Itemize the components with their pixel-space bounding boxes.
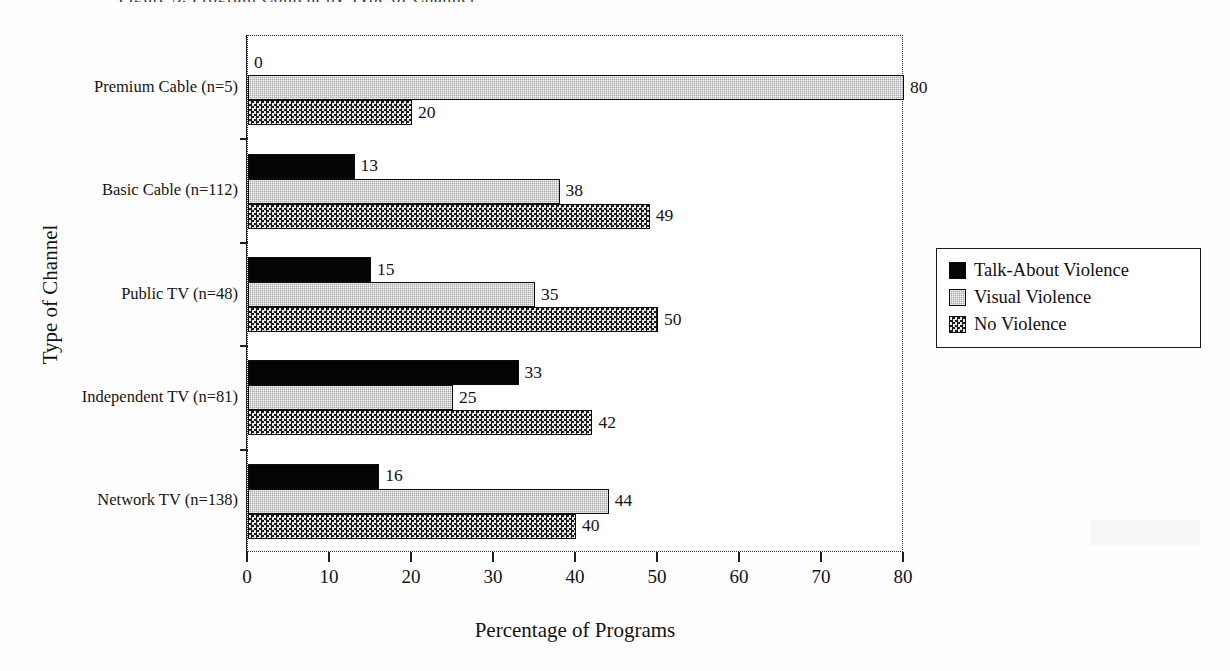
bar-talk-about-violence [248,464,379,489]
bar-value-label: 40 [576,515,600,536]
x-axis-tick [328,552,330,562]
bar-visual-violence [248,75,904,100]
x-axis-tick-label: 40 [566,566,585,588]
category-label: Public TV (n=48) [121,284,238,304]
bar-group: 153550 [248,257,902,332]
bar-row: 38 [248,179,902,204]
category-axis-labels: Premium Cable (n=5)Basic Cable (n=112)Pu… [0,0,238,671]
x-axis-tick [246,552,248,562]
x-axis-tick-label: 30 [484,566,503,588]
bar-row: 15 [248,257,902,282]
category-label: Independent TV (n=81) [82,387,238,407]
x-axis-tick-label: 70 [812,566,831,588]
legend-item: No Violence [949,311,1190,338]
bar-no-violence [248,514,576,539]
bar-talk-about-violence [248,360,519,385]
x-axis-tick [410,552,412,562]
bar-row: 80 [248,75,902,100]
bar-row: 42 [248,410,902,435]
category-label: Network TV (n=138) [97,490,238,510]
x-axis-tick-label: 10 [320,566,339,588]
bar-row: 13 [248,154,902,179]
solid-black-swatch [949,262,966,279]
y-axis-tick [240,345,248,347]
bar-row: 16 [248,464,902,489]
legend-label: No Violence [974,315,1067,334]
bar-value-label: 35 [535,284,559,305]
bar-visual-violence [248,489,609,514]
dark-checkered-swatch [949,316,966,333]
bar-row: 0 [248,50,902,75]
legend-label: Talk-About Violence [974,261,1129,280]
bar-visual-violence [248,385,453,410]
x-axis-tick [820,552,822,562]
bar-value-label: 25 [453,387,477,408]
x-axis-tick [492,552,494,562]
x-axis-tick [738,552,740,562]
bar-value-label: 44 [609,490,633,511]
x-axis-title: Percentage of Programs [247,618,903,643]
bar-row: 25 [248,385,902,410]
legend-item: Visual Violence [949,284,1190,311]
bar-no-violence [248,204,650,229]
y-axis-tick [240,138,248,140]
legend: Talk-About ViolenceVisual ViolenceNo Vio… [936,248,1201,348]
legend-item: Talk-About Violence [949,257,1190,284]
bar-row: 44 [248,489,902,514]
bar-talk-about-violence [248,154,355,179]
bar-value-label: 16 [379,465,403,486]
y-axis-title: Type of Channel [38,185,63,405]
bar-row: 35 [248,282,902,307]
light-gray-dotted-swatch [949,289,966,306]
bar-row: 49 [248,204,902,229]
legend-label: Visual Violence [974,288,1091,307]
bar-value-label: 20 [412,102,436,123]
bar-value-label: 49 [650,205,674,226]
bar-value-label: 15 [371,259,395,280]
y-axis-tick [240,449,248,451]
bar-row: 40 [248,514,902,539]
bar-no-violence [248,100,412,125]
bar-value-label: 80 [904,77,928,98]
category-label: Premium Cable (n=5) [94,77,238,97]
bar-group: 332542 [248,360,902,435]
bar-visual-violence [248,282,535,307]
bar-group: 133849 [248,154,902,229]
plot-area: 08020133849153550332542164440 [247,35,903,552]
bar-value-label: 33 [519,362,543,383]
bar-group: 164440 [248,464,902,539]
bar-value-label: 38 [560,180,584,201]
x-axis-tick [656,552,658,562]
chart-page: Figure 3. Program Content by Type of Cha… [0,0,1230,671]
bar-group: 08020 [248,50,902,125]
bar-row: 20 [248,100,902,125]
bar-row: 50 [248,307,902,332]
bar-value-label: 13 [355,155,379,176]
bar-value-label: 0 [248,52,263,73]
category-label: Basic Cable (n=112) [102,180,238,200]
x-axis-tick-label: 0 [242,566,252,588]
bar-no-violence [248,307,658,332]
y-axis-tick [240,242,248,244]
bar-row: 33 [248,360,902,385]
x-axis-tick-label: 80 [894,566,913,588]
x-axis-tick [574,552,576,562]
x-axis-tick-label: 60 [730,566,749,588]
bar-visual-violence [248,179,560,204]
x-axis-tick-label: 20 [402,566,421,588]
x-axis-tick-label: 50 [648,566,667,588]
bar-value-label: 42 [592,412,616,433]
bar-value-label: 50 [658,309,682,330]
bar-no-violence [248,410,592,435]
x-axis-tick [902,552,904,562]
bar-talk-about-violence [248,257,371,282]
